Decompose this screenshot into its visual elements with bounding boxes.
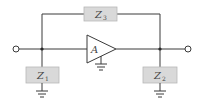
z1-label: Z: [36, 70, 45, 81]
z2-subscript: 2: [162, 75, 166, 82]
amplifier: A: [87, 35, 116, 70]
feedback-wire-right: [117, 14, 160, 49]
input-terminal: [13, 46, 19, 52]
z1-subscript: 1: [45, 75, 49, 82]
z2-label: Z: [153, 70, 162, 81]
impedance-z3: Z 3: [84, 7, 117, 21]
amplifier-ground-icon: [95, 64, 107, 70]
impedance-z1: Z 1: [26, 67, 59, 83]
amplifier-label: A: [90, 44, 98, 55]
z1-ground-icon: [36, 91, 48, 97]
circuit-diagram: Z 3 A Z 1 Z 2: [0, 0, 203, 108]
z3-label: Z: [94, 9, 103, 20]
z2-ground-icon: [154, 91, 166, 97]
impedance-z2: Z 2: [143, 67, 177, 83]
z3-subscript: 3: [103, 14, 107, 21]
output-terminal: [185, 46, 191, 52]
feedback-wire-left: [42, 14, 84, 49]
